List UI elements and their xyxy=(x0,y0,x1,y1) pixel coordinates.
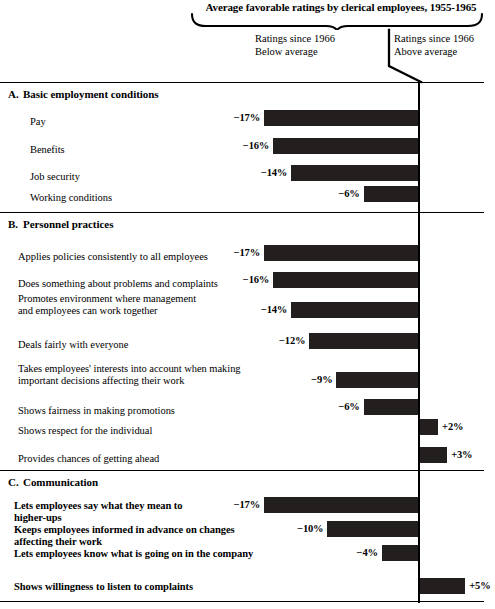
bar xyxy=(420,447,447,463)
bar xyxy=(309,333,418,349)
section-name: Basic employment conditions xyxy=(23,88,159,100)
bar xyxy=(264,110,418,126)
bar-category-label: Shows willingness to listen to complaint… xyxy=(14,581,193,593)
chart-header: Average favorable ratings by clerical em… xyxy=(0,0,484,82)
legend-pointer-line xyxy=(370,28,432,88)
bar xyxy=(273,272,418,288)
bar-value-label: +5% xyxy=(469,580,495,592)
bar-category-label: Provides chances of getting ahead xyxy=(18,453,159,465)
legend-below-average-line1: Ratings since 1966 xyxy=(255,33,335,46)
bar-value-label: −10% xyxy=(279,523,323,535)
bar-category-label: Lets employees know what is going on in … xyxy=(14,548,253,560)
legend-below-average: Ratings since 1966 Below average xyxy=(255,33,335,58)
bar-value-label: −12% xyxy=(261,335,305,347)
zero-axis-line xyxy=(418,82,420,603)
bar xyxy=(291,302,418,318)
bar-category-label: Pay xyxy=(30,116,46,128)
bar-value-label: −14% xyxy=(243,167,287,179)
section-divider xyxy=(0,470,484,471)
bar-value-label: −17% xyxy=(216,247,260,259)
bar-value-label: +2% xyxy=(442,421,486,433)
section-name: Personnel practices xyxy=(23,218,113,230)
bar-value-label: −4% xyxy=(334,547,378,559)
bar-category-label: Job security xyxy=(30,171,80,183)
brace-bracket xyxy=(190,12,484,34)
bar-value-label: −14% xyxy=(243,304,287,316)
bar-category-label: Keeps employees informed in advance on c… xyxy=(14,524,235,548)
bar-category-label: Applies policies consistently to all emp… xyxy=(18,251,208,263)
bar-category-label: Deals fairly with everyone xyxy=(18,339,128,351)
bar xyxy=(420,419,438,435)
section-title: C.Communication xyxy=(0,476,98,488)
bar-category-label: Promotes environment where management an… xyxy=(18,293,196,317)
bar-category-label: Benefits xyxy=(30,144,65,156)
bar-category-label: Shows fairness in making promotions xyxy=(18,405,175,417)
bar-value-label: −16% xyxy=(225,274,269,286)
bar-category-label: Shows respect for the individual xyxy=(18,425,152,437)
bar-category-label: Takes employees' interests into account … xyxy=(18,363,241,387)
section-divider xyxy=(0,212,484,213)
bar xyxy=(264,245,418,261)
bar xyxy=(273,138,418,154)
bar xyxy=(264,497,418,513)
bar-value-label: −17% xyxy=(216,499,260,511)
legend-below-average-line2: Below average xyxy=(255,46,335,59)
section-divider xyxy=(0,601,484,602)
bar xyxy=(291,165,418,181)
bar-value-label: −6% xyxy=(316,188,360,200)
section-title: A.Basic employment conditions xyxy=(0,88,159,100)
bar-category-label: Does something about problems and compla… xyxy=(18,278,218,290)
bar xyxy=(327,521,418,537)
bar-value-label: −16% xyxy=(225,140,269,152)
section-divider xyxy=(0,82,484,83)
bar xyxy=(336,372,418,388)
bar xyxy=(420,578,465,594)
section-letter: B. xyxy=(8,218,23,230)
bar xyxy=(382,545,418,561)
bar-value-label: −17% xyxy=(216,112,260,124)
bar-value-label: −9% xyxy=(288,374,332,386)
section-name: Communication xyxy=(23,476,98,488)
bar-category-label: Lets employees say what they mean to hig… xyxy=(14,500,183,524)
bar-value-label: −6% xyxy=(316,401,360,413)
bar xyxy=(364,186,418,202)
section-title: B.Personnel practices xyxy=(0,218,113,230)
section-letter: A. xyxy=(8,88,23,100)
bar xyxy=(364,399,418,415)
bar-value-label: +3% xyxy=(451,449,495,461)
section-letter: C. xyxy=(8,476,23,488)
bar-category-label: Working conditions xyxy=(30,192,112,204)
